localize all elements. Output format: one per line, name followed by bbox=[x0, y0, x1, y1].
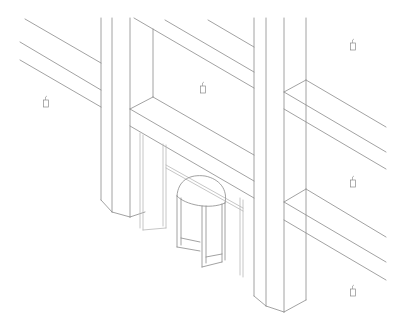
wall-light-right-bottom-icon bbox=[351, 285, 356, 296]
beam-line bbox=[20, 60, 101, 107]
beam-line bbox=[284, 189, 306, 202]
left-wall-beams bbox=[20, 19, 101, 107]
beam-line bbox=[20, 42, 101, 90]
recess-line bbox=[134, 18, 254, 88]
beam-line bbox=[284, 80, 306, 92]
left-column bbox=[101, 18, 145, 217]
entrance-frame bbox=[140, 133, 243, 277]
recess-line bbox=[208, 20, 254, 47]
column-base bbox=[284, 300, 306, 312]
light-fixtures bbox=[44, 39, 356, 296]
recess-line bbox=[130, 97, 153, 109]
frame-line bbox=[166, 165, 243, 208]
architectural-drawing bbox=[0, 0, 406, 322]
recess-line bbox=[165, 20, 254, 72]
door-right-wing bbox=[202, 262, 222, 267]
beam-line bbox=[284, 220, 386, 280]
wall-light-right-top-icon bbox=[351, 39, 356, 50]
door-left-wing bbox=[181, 238, 200, 242]
door-left-wing bbox=[177, 247, 200, 251]
beam-line bbox=[306, 80, 386, 127]
door-right-wing bbox=[206, 254, 222, 257]
column-base bbox=[112, 212, 130, 217]
recess-line bbox=[153, 97, 254, 155]
right-column bbox=[254, 18, 306, 312]
revolving-door bbox=[177, 176, 226, 267]
column-base bbox=[101, 200, 112, 212]
column-base bbox=[254, 296, 266, 306]
beam-line bbox=[284, 202, 386, 262]
recess-line bbox=[130, 126, 254, 198]
beam-line bbox=[306, 189, 386, 237]
beam-line bbox=[25, 19, 101, 63]
center-recess bbox=[130, 18, 254, 198]
column-base bbox=[266, 306, 284, 312]
beam-line bbox=[284, 92, 386, 152]
frame-line bbox=[166, 168, 243, 211]
door-canopy-bottom bbox=[177, 196, 225, 206]
wall-light-left-icon bbox=[44, 96, 49, 107]
wall-light-center-icon bbox=[201, 82, 206, 93]
wall-light-right-middle-icon bbox=[351, 176, 356, 187]
right-wall-beams bbox=[284, 80, 386, 280]
frame-line bbox=[143, 228, 166, 230]
door-canopy-top bbox=[177, 176, 226, 203]
